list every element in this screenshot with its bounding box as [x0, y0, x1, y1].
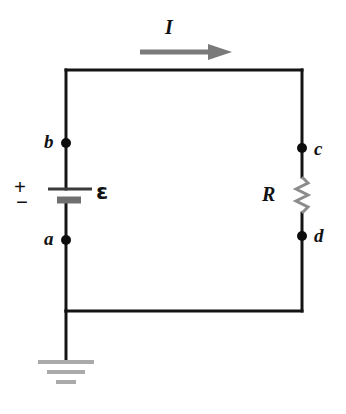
resistor-label: R: [262, 184, 275, 204]
emf-source-symbol: [48, 189, 92, 200]
node-dot-b: [61, 138, 71, 148]
node-dot-a: [61, 235, 71, 245]
ground-symbol: [38, 362, 94, 382]
circuit-wires: [66, 70, 302, 361]
battery-minus-sign: −: [16, 192, 28, 213]
node-dot-d: [297, 231, 307, 241]
current-arrow-head: [208, 44, 232, 60]
current-arrow: [140, 44, 232, 60]
node-label-c: c: [314, 139, 322, 158]
circuit-diagram-figure: I b a c d R ε + −: [0, 0, 346, 414]
node-label-b: b: [44, 132, 54, 151]
current-label: I: [165, 17, 173, 37]
node-label-d: d: [314, 226, 324, 245]
circuit-schematic-canvas: [0, 0, 346, 414]
resistor-zigzag: [296, 177, 308, 213]
emf-label: ε: [96, 181, 108, 203]
resistor-symbol: [296, 177, 308, 213]
node-label-a: a: [44, 229, 54, 248]
node-dot-c: [297, 143, 307, 153]
